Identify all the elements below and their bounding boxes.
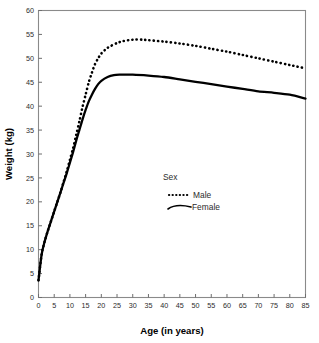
x-tick-label: 35 xyxy=(144,301,152,310)
x-tick-label: 40 xyxy=(160,301,168,310)
legend-label-female: Female xyxy=(192,202,220,212)
x-tick-label: 30 xyxy=(129,301,137,310)
x-tick-label: 55 xyxy=(207,301,215,310)
y-tick-label: 20 xyxy=(26,197,34,206)
y-tick-label: 10 xyxy=(26,245,34,254)
x-axis-title: Age (in years) xyxy=(140,325,203,336)
x-tick-label: 50 xyxy=(192,301,200,310)
y-tick-label: 30 xyxy=(26,150,34,159)
legend-label-male: Male xyxy=(193,190,211,200)
y-tick-label: 50 xyxy=(26,54,34,63)
x-tick-label: 70 xyxy=(254,301,262,310)
x-tick-label: 5 xyxy=(52,301,56,310)
chart-canvas: 0510152025303540455055600510152025303540… xyxy=(0,0,319,343)
y-tick-label: 60 xyxy=(26,6,34,15)
x-tick-label: 10 xyxy=(66,301,74,310)
y-tick-label: 45 xyxy=(26,78,34,87)
weight-by-age-chart: 0510152025303540455055600510152025303540… xyxy=(0,0,319,343)
x-tick-label: 45 xyxy=(176,301,184,310)
y-tick-label: 15 xyxy=(26,221,34,230)
x-tick-label: 20 xyxy=(97,301,105,310)
x-tick-label: 0 xyxy=(37,301,41,310)
x-tick-label: 75 xyxy=(270,301,278,310)
plot-frame xyxy=(39,11,306,298)
x-tick-label: 65 xyxy=(239,301,247,310)
x-tick-label: 85 xyxy=(302,301,310,310)
y-tick-label: 25 xyxy=(26,174,34,183)
legend-title: Sex xyxy=(163,172,178,182)
x-tick-label: 80 xyxy=(286,301,294,310)
y-tick-label: 40 xyxy=(26,102,34,111)
y-tick-label: 0 xyxy=(30,293,34,302)
y-tick-label: 35 xyxy=(26,126,34,135)
y-tick-label: 55 xyxy=(26,30,34,39)
x-tick-label: 60 xyxy=(223,301,231,310)
y-axis-title: Weight (kg) xyxy=(3,128,14,180)
y-tick-label: 5 xyxy=(30,269,34,278)
x-tick-label: 25 xyxy=(113,301,121,310)
x-tick-label: 15 xyxy=(82,301,90,310)
